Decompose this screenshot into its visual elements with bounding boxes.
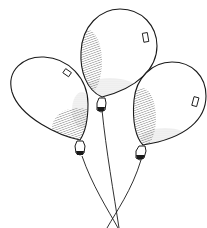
balloon-strings — [82, 110, 141, 228]
right-knot — [136, 146, 146, 160]
middle-string — [102, 110, 119, 228]
balloons-illustration — [0, 0, 207, 228]
left-knot — [75, 141, 85, 155]
highlight-icon — [142, 33, 148, 43]
left-string — [82, 156, 118, 228]
middle-knot — [97, 98, 106, 112]
